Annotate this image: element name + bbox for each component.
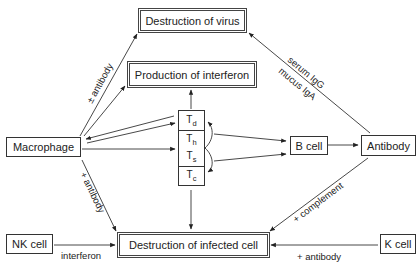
edge-th-td-curve xyxy=(205,122,212,148)
diagram-edges: ± antibody serum IgG mucus IgA + antibod… xyxy=(0,0,420,267)
edge-ts-tc-curve xyxy=(205,148,212,172)
destruction-of-infected-cell-node: Destruction of infected cell xyxy=(117,232,270,258)
divider xyxy=(179,130,204,131)
t-cell-tc: Tc xyxy=(179,169,204,183)
edge-td-macrophage xyxy=(86,116,174,139)
edge-ts-bcell xyxy=(214,154,286,161)
destruction-of-virus-node: Destruction of virus xyxy=(138,8,247,33)
edge-macrophage-td xyxy=(87,123,175,143)
antibody-node: Antibody xyxy=(361,135,416,156)
divider xyxy=(179,166,204,167)
t-cell-td: Td xyxy=(179,114,204,128)
k-cell-node: K cell xyxy=(380,234,416,254)
edge-antibody-virus xyxy=(249,33,370,133)
label-pm-antibody: ± antibody xyxy=(84,61,115,105)
label-interferon: interferon xyxy=(61,250,101,261)
t-cell-group: Td Th Ts Tc xyxy=(178,110,205,186)
macrophage-node: Macrophage xyxy=(6,137,81,157)
nk-cell-node: NK cell xyxy=(6,234,53,254)
production-of-interferon-node: Production of interferon xyxy=(127,61,257,88)
label-plus-antibody-left: + antibody xyxy=(78,170,107,215)
edge-th-bcell xyxy=(214,134,286,141)
t-cell-th: Th xyxy=(179,133,204,147)
label-plus-complement: + complement xyxy=(291,180,346,225)
label-plus-antibody-k: + antibody xyxy=(297,251,341,262)
t-cell-ts: Ts xyxy=(179,150,204,164)
b-cell-node: B cell xyxy=(290,136,328,155)
